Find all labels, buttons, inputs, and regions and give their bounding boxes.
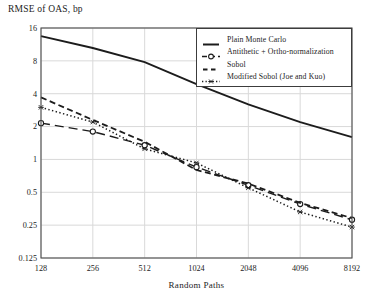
y-tick-label: 16 [29, 24, 37, 33]
y-tick-label: 0.125 [19, 254, 37, 263]
legend-item-sobol: Sobol [202, 58, 348, 71]
y-tick-label: 4 [33, 90, 37, 99]
x-tick-label: 4096 [292, 264, 308, 273]
chart-figure: 1684210.50.250.1251282565121024204840968… [0, 0, 370, 304]
legend-item-modified-sobol-joe-and-kuo: Modified Sobol (Joe and Kuo) [202, 71, 348, 84]
y-tick-label: 2 [33, 122, 37, 131]
chart-title: RMSE of OAS, bp [8, 4, 83, 14]
marker-circle-antithetic-ortho-normalization [90, 129, 95, 134]
legend-label-plain-monte-carlo: Plain Monte Carlo [227, 35, 286, 44]
y-tick-label: 8 [33, 57, 37, 66]
legend-dotted-line-icon [202, 72, 222, 81]
x-tick-label: 256 [87, 264, 99, 273]
legend-label-antithetic-ortho-normalization: Antithetic + Ortho-normalization [227, 47, 334, 56]
legend-dash-line-icon [202, 60, 222, 69]
legend-item-antithetic-ortho-normalization: Antithetic + Ortho-normalization [202, 46, 348, 59]
x-axis-label: Random Paths [41, 280, 352, 290]
legend: Plain Monte CarloAntithetic + Ortho-norm… [196, 28, 352, 87]
x-tick-label: 512 [139, 264, 151, 273]
legend-label-modified-sobol-joe-and-kuo: Modified Sobol (Joe and Kuo) [227, 72, 325, 81]
y-tick-label: 0.25 [23, 221, 37, 230]
y-tick-label: 0.5 [27, 188, 37, 197]
x-tick-label: 8192 [344, 264, 360, 273]
y-tick-label: 1 [33, 155, 37, 164]
x-tick-label: 128 [35, 264, 47, 273]
legend-item-plain-monte-carlo: Plain Monte Carlo [202, 33, 348, 46]
legend-solid-line-icon [202, 35, 222, 44]
x-tick-label: 1024 [188, 264, 204, 273]
legend-long-dash-line-icon [202, 47, 222, 56]
x-tick-label: 2048 [240, 264, 256, 273]
legend-label-sobol: Sobol [227, 60, 246, 69]
